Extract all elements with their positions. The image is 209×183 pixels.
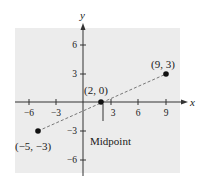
point-label-endpoint-2: (9, 3) xyxy=(151,58,175,71)
point-midpoint xyxy=(98,99,104,105)
x-axis-label: x xyxy=(189,96,195,108)
point-endpoint-2 xyxy=(163,71,169,77)
midpoint-annotation: Midpoint xyxy=(90,135,131,147)
x-tick-label: 3 xyxy=(111,108,116,118)
point-label-midpoint: (2, 0) xyxy=(84,84,108,97)
y-tick-label: −3 xyxy=(67,126,77,136)
y-axis-arrow-icon xyxy=(81,23,86,30)
point-endpoint-1 xyxy=(35,128,41,134)
x-tick-label: 9 xyxy=(164,108,169,118)
y-axis-label: y xyxy=(79,9,85,21)
y-tick-label: 3 xyxy=(72,69,77,79)
y-tick-label: −6 xyxy=(67,155,77,165)
x-tick-label: −6 xyxy=(24,108,34,118)
x-axis-arrow-icon xyxy=(181,100,188,105)
point-label-endpoint-1: (−5, −3) xyxy=(15,140,52,153)
coordinate-plane: x y −6 −3 3 6 9 6 3 −3 −6 (−5, −3) (2, 0… xyxy=(0,0,209,183)
y-tick-label: 6 xyxy=(72,40,77,50)
x-tick-label: −3 xyxy=(51,108,61,118)
x-tick-label: 6 xyxy=(136,108,141,118)
